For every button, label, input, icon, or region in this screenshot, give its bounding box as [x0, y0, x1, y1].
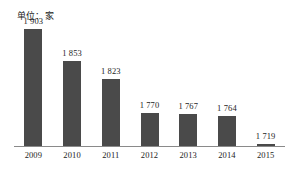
- bar-group: 1 853: [55, 0, 89, 147]
- bar-value-label: 1 767: [178, 101, 198, 111]
- bar-group: 1 719: [249, 0, 283, 147]
- plot-area: 1 9031 8531 8231 7701 7671 7641 719: [14, 0, 285, 147]
- bar-group: 1 764: [210, 0, 244, 147]
- bar-value-label: 1 853: [62, 48, 82, 58]
- bar: [218, 116, 236, 147]
- bar-group: 1 903: [16, 0, 50, 147]
- x-axis-tick-label: 2010: [55, 150, 89, 160]
- x-axis-line: [14, 146, 285, 147]
- bar-group: 1 767: [171, 0, 205, 147]
- bar-value-label: 1 764: [217, 103, 237, 113]
- bar: [102, 79, 120, 147]
- bar-group: 1 770: [133, 0, 167, 147]
- bar-group: 1 823: [94, 0, 128, 147]
- bar-value-label: 1 823: [101, 66, 121, 76]
- bar: [179, 114, 197, 147]
- x-axis-tick-label: 2009: [16, 150, 50, 160]
- bar: [63, 61, 81, 147]
- x-axis-tick-label: 2013: [171, 150, 205, 160]
- x-axis-tick-label: 2012: [133, 150, 167, 160]
- x-axis-tick-label: 2011: [94, 150, 128, 160]
- x-axis-tick-label: 2014: [210, 150, 244, 160]
- bar-value-label: 1 903: [24, 16, 44, 26]
- bar: [141, 113, 159, 147]
- x-axis-tick-label: 2015: [249, 150, 283, 160]
- bar-value-label: 1 719: [256, 131, 276, 141]
- bar-chart: 单位：家 1 9031 8531 8231 7701 7671 7641 719…: [0, 0, 289, 173]
- bar-value-label: 1 770: [140, 100, 160, 110]
- bar: [24, 29, 42, 147]
